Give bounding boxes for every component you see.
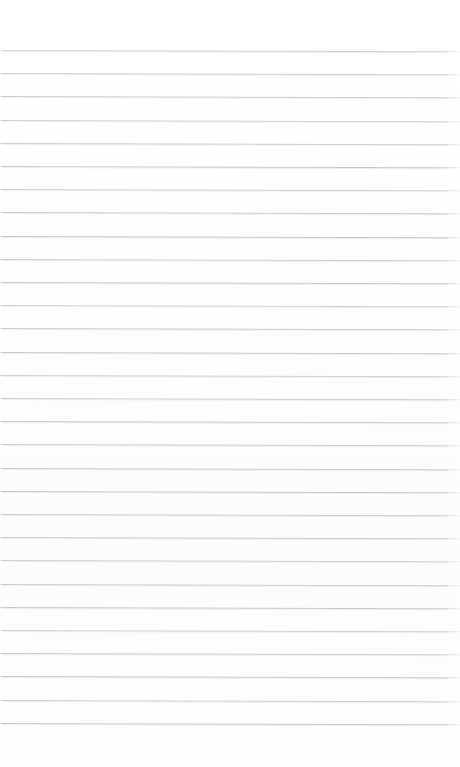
rule-line-shadow xyxy=(2,190,447,192)
rule-line xyxy=(2,352,447,354)
rule-line-shadow xyxy=(2,97,447,99)
rule-line-shadow xyxy=(2,538,447,540)
rule-line-shadow xyxy=(2,515,447,517)
rule-line-shadow xyxy=(2,376,447,378)
rule-line xyxy=(2,398,447,400)
rule-line-shadow xyxy=(2,654,447,656)
rule-lines-group xyxy=(0,0,460,767)
rule-line-shadow xyxy=(2,561,447,563)
rule-line-shadow xyxy=(2,631,447,633)
rule-line xyxy=(2,514,447,516)
rule-line-shadow xyxy=(2,585,447,587)
rule-line xyxy=(2,236,447,238)
rule-line xyxy=(2,166,447,168)
rule-line xyxy=(2,259,447,261)
rule-line xyxy=(2,189,447,191)
rule-line-shadow xyxy=(2,492,447,494)
rule-line-shadow xyxy=(2,306,447,308)
rule-line xyxy=(2,444,447,446)
rule-line-shadow xyxy=(2,167,447,169)
rule-line-shadow xyxy=(2,353,447,355)
rule-line xyxy=(2,468,447,470)
rule-line xyxy=(2,73,447,75)
rule-line xyxy=(2,212,447,214)
rule-line-shadow xyxy=(2,74,447,76)
rule-line-shadow xyxy=(2,121,447,123)
rule-line xyxy=(2,653,447,655)
ruled-paper-page xyxy=(0,0,460,767)
rule-line-shadow xyxy=(2,260,447,262)
rule-line xyxy=(2,305,447,307)
rule-line-shadow xyxy=(2,144,447,146)
rule-line-shadow xyxy=(2,399,447,401)
rule-line-shadow xyxy=(2,51,447,53)
rule-line-shadow xyxy=(2,701,447,703)
rule-line-shadow xyxy=(2,329,447,331)
rule-line xyxy=(2,723,447,725)
rule-line xyxy=(2,630,447,632)
rule-line-shadow xyxy=(2,237,447,239)
rule-line xyxy=(2,676,447,678)
rule-line xyxy=(2,700,447,702)
rule-line xyxy=(2,375,447,377)
rule-line xyxy=(2,282,447,284)
rule-line xyxy=(2,491,447,493)
rule-line xyxy=(2,607,447,609)
rule-line-shadow xyxy=(2,677,447,679)
rule-line xyxy=(2,143,447,145)
rule-line-shadow xyxy=(2,283,447,285)
rule-line xyxy=(2,537,447,539)
rule-line-shadow xyxy=(2,724,447,726)
rule-line xyxy=(2,96,447,98)
rule-line xyxy=(2,328,447,330)
rule-line xyxy=(2,584,447,586)
rule-line-shadow xyxy=(2,213,447,215)
rule-line-shadow xyxy=(2,422,447,424)
rule-line xyxy=(2,421,447,423)
rule-line-shadow xyxy=(2,608,447,610)
rule-line xyxy=(2,560,447,562)
rule-line-shadow xyxy=(2,469,447,471)
rule-line-shadow xyxy=(2,445,447,447)
rule-line xyxy=(2,50,447,52)
rule-line xyxy=(2,120,447,122)
